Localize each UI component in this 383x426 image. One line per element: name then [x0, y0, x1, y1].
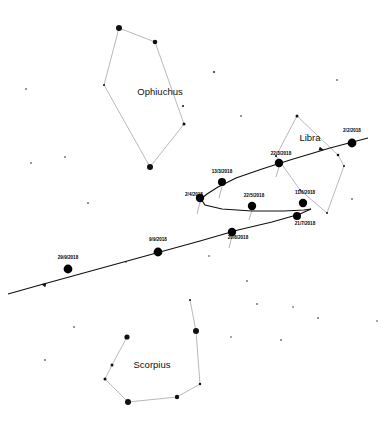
planet-position-marker [299, 199, 307, 207]
constellation-star [296, 115, 299, 118]
constellation-line [112, 337, 127, 365]
constellation-label: Scorpius [134, 359, 171, 370]
planet-date-label: 20/8/2018 [228, 235, 249, 240]
planet-position-marker [218, 178, 226, 186]
constellation-star [153, 40, 158, 45]
planet-date-label: 13/3/2018 [212, 169, 233, 174]
constellation-star [199, 383, 201, 385]
constellation-label: Libra [299, 132, 321, 143]
background-star [256, 303, 258, 305]
constellation-line [128, 397, 177, 402]
date-label-layer: 2/2/201822/3/201813/3/20182/4/201822/5/2… [58, 128, 362, 260]
planet-date-label: 29/9/2018 [58, 255, 79, 260]
background-star [246, 280, 248, 282]
constellation-star [182, 105, 184, 107]
sky-canvas: OphiuchusLibraScorpius 2/2/201822/3/2018… [0, 0, 383, 426]
constellation-star [103, 84, 105, 86]
background-star [280, 339, 282, 341]
background-star [25, 88, 27, 90]
background-star [87, 202, 89, 204]
constellation-line [196, 331, 200, 384]
planet-date-label: 22/5/2018 [244, 193, 265, 198]
constellation-star [326, 212, 328, 214]
planet-position-marker [293, 212, 301, 220]
planet-position-marker [154, 248, 163, 257]
constellation-line [104, 28, 119, 85]
star-chart: OphiuchusLibraScorpius 2/2/201822/3/2018… [0, 0, 383, 426]
planet-date-label: 2/4/2018 [185, 192, 203, 197]
constellation-line [150, 124, 184, 167]
constellation-star [116, 25, 122, 31]
background-star [240, 115, 242, 117]
constellation-star [125, 399, 131, 405]
constellation-line [327, 166, 344, 213]
background-star [336, 79, 338, 81]
date-tick-mark [249, 210, 252, 220]
constellation-line [155, 42, 184, 124]
planet-date-label: 11/6/2018 [295, 190, 316, 195]
background-star [351, 198, 353, 200]
constellation-star [124, 334, 129, 339]
constellation-line [190, 300, 196, 331]
background-star [30, 162, 32, 164]
planet-date-label: 9/9/2018 [149, 237, 167, 242]
constellation-star [183, 123, 186, 126]
constellation-line [338, 155, 344, 166]
background-star [44, 359, 46, 361]
constellation-star [111, 364, 114, 367]
date-tick-mark [219, 186, 222, 198]
background-star [230, 336, 231, 337]
constellation-star [189, 299, 191, 301]
constellation-star [175, 395, 179, 399]
constellation-star [193, 328, 199, 334]
planet-date-label: 21/7/2018 [295, 221, 316, 226]
constellation-line [276, 116, 297, 156]
constellation-line [104, 85, 150, 167]
planet-position-marker [348, 139, 357, 148]
planet-date-label: 22/3/2018 [271, 151, 292, 156]
background-star [64, 156, 66, 158]
direction-arrow-layer [40, 147, 324, 288]
background-star [73, 326, 75, 328]
background-star-layer [25, 71, 377, 361]
constellation-star [337, 154, 340, 157]
constellation-star [343, 165, 345, 167]
background-star [208, 255, 209, 256]
constellation-label: Ophiuchus [137, 86, 183, 97]
constellation-star [104, 378, 107, 381]
constellation-line [105, 365, 112, 379]
constellation-label-layer: OphiuchusLibraScorpius [134, 86, 322, 370]
date-tick-mark [276, 167, 279, 177]
planet-date-label: 2/2/2018 [343, 128, 361, 133]
constellation-line [119, 28, 155, 42]
planet-path-layer [8, 138, 368, 294]
date-tick-mark [197, 202, 200, 214]
background-star [292, 306, 293, 307]
constellation-star-layer [103, 25, 345, 405]
background-star [213, 71, 215, 73]
planet-position-marker [275, 159, 283, 167]
constellation-line-layer [104, 28, 344, 402]
constellation-line [105, 379, 128, 402]
background-star [317, 317, 319, 319]
constellation-star [147, 164, 153, 170]
constellation-line [177, 384, 200, 397]
planet-position-marker [64, 265, 73, 274]
background-star [376, 320, 377, 321]
planet-position-marker [248, 202, 256, 210]
